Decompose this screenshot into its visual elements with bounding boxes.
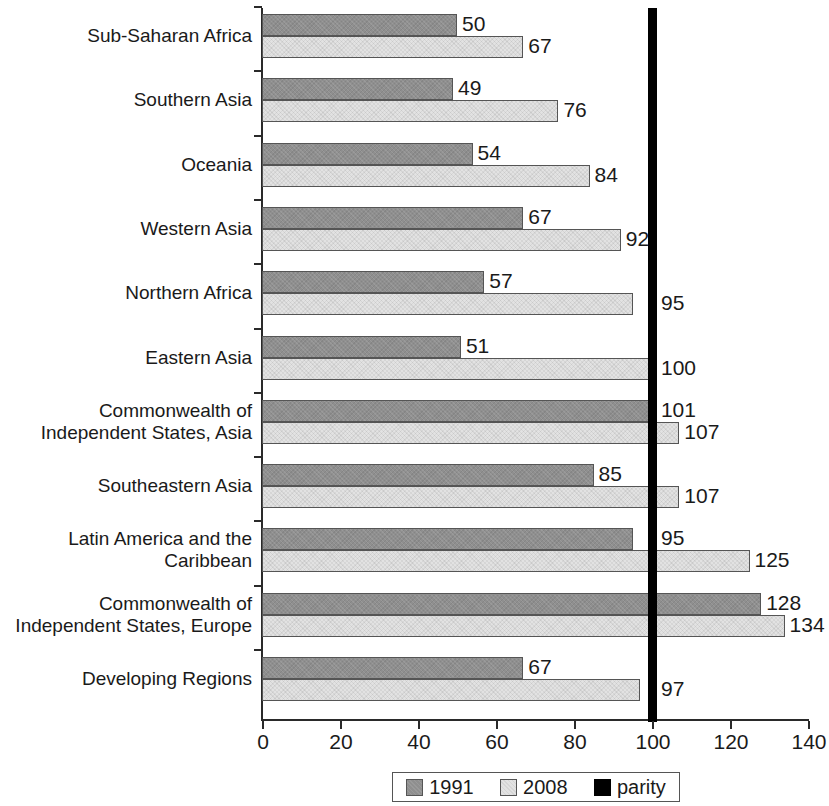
y-axis-tick [254, 392, 262, 394]
bar-1991-7 [262, 464, 594, 486]
x-axis-tick-label: 80 [563, 730, 586, 754]
x-axis-tick-label: 140 [791, 730, 826, 754]
bar-2008-10 [262, 679, 640, 701]
bar-value-label: 54 [478, 141, 501, 165]
y-axis-tick [254, 520, 262, 522]
bar-2008-7 [262, 486, 679, 508]
bar-value-label: 67 [528, 205, 551, 229]
legend-label-parity: parity [617, 776, 666, 799]
bar-2008-3 [262, 229, 621, 251]
x-axis-tick-label: 60 [485, 730, 508, 754]
bar-value-label: 95 [661, 526, 684, 550]
bar-1991-3 [262, 207, 523, 229]
category-label-7: Southeastern Asia [2, 475, 252, 497]
legend-item-parity: parity [594, 776, 666, 799]
category-label-0: Sub-Saharan Africa [2, 25, 252, 47]
y-axis-tick [254, 135, 262, 137]
bar-value-label: 107 [684, 484, 719, 508]
x-axis-tick-label: 20 [329, 730, 352, 754]
bar-value-label: 125 [755, 548, 790, 572]
category-label-4: Northern Africa [2, 282, 252, 304]
legend-label-1991: 1991 [429, 776, 474, 799]
bar-value-label: 134 [790, 613, 825, 637]
bar-value-label: 101 [661, 398, 696, 422]
bar-1991-9 [262, 593, 761, 615]
bar-value-label: 100 [661, 356, 696, 380]
x-axis-tick [730, 721, 732, 729]
bar-chart: 5067497654846792579551100101107851079512… [0, 0, 829, 806]
bar-1991-2 [262, 143, 473, 165]
parity-swatch [594, 779, 611, 796]
bar-value-label: 51 [466, 334, 489, 358]
bar-value-label: 67 [528, 655, 551, 679]
bar-value-label: 95 [661, 291, 684, 315]
bar-1991-0 [262, 14, 457, 36]
legend-item-2008: 2008 [500, 776, 568, 799]
bar-1991-8 [262, 528, 633, 550]
x-axis-tick [496, 721, 498, 729]
x-axis-tick-label: 120 [713, 730, 748, 754]
y-axis-tick [254, 328, 262, 330]
bar-value-label: 50 [462, 12, 485, 36]
x-axis-tick [808, 721, 810, 729]
category-label-2: Oceania [2, 154, 252, 176]
bar-1991-4 [262, 271, 484, 293]
x-axis-tick [574, 721, 576, 729]
bar-value-label: 49 [458, 76, 481, 100]
x-axis-tick-label: 100 [635, 730, 670, 754]
bar-2008-9 [262, 615, 785, 637]
legend-label-2008: 2008 [523, 776, 568, 799]
category-label-10: Developing Regions [2, 668, 252, 690]
parity-reference-line [648, 8, 657, 722]
bar-2008-4 [262, 293, 633, 315]
bar-1991-6 [262, 400, 656, 422]
x-axis-tick-label: 40 [407, 730, 430, 754]
y-axis-tick [254, 6, 262, 8]
series-1991-swatch [406, 779, 423, 796]
bar-2008-1 [262, 100, 558, 122]
bar-2008-8 [262, 550, 750, 572]
y-axis-tick [254, 585, 262, 587]
bar-1991-1 [262, 78, 453, 100]
bar-value-label: 107 [684, 420, 719, 444]
bar-2008-6 [262, 422, 679, 444]
chart-legend: 1991 2008 parity [392, 772, 680, 802]
bar-value-label: 57 [489, 269, 512, 293]
plot-area: 5067497654846792579551100101107851079512… [262, 10, 808, 718]
y-axis-tick [254, 649, 262, 651]
x-axis-tick [262, 721, 264, 729]
y-axis-tick [254, 263, 262, 265]
bar-value-label: 97 [661, 677, 684, 701]
y-axis-tick [254, 70, 262, 72]
category-label-6: Commonwealth of Independent States, Asia [2, 400, 252, 444]
legend-item-1991: 1991 [406, 776, 474, 799]
category-label-5: Eastern Asia [2, 347, 252, 369]
bar-value-label: 128 [766, 591, 801, 615]
bar-value-label: 92 [626, 227, 649, 251]
bar-2008-2 [262, 165, 590, 187]
x-axis-tick-label: 0 [257, 730, 269, 754]
bar-value-label: 84 [595, 163, 618, 187]
x-axis-tick [652, 721, 654, 729]
category-label-3: Western Asia [2, 218, 252, 240]
bar-1991-5 [262, 336, 461, 358]
category-label-8: Latin America and the Caribbean [2, 528, 252, 572]
x-axis-line [261, 719, 809, 721]
y-axis-tick [254, 199, 262, 201]
bar-value-label: 67 [528, 34, 551, 58]
bar-2008-5 [262, 358, 652, 380]
y-axis-tick [254, 456, 262, 458]
category-label-1: Southern Asia [2, 89, 252, 111]
x-axis-tick [418, 721, 420, 729]
category-label-9: Commonwealth of Independent States, Euro… [2, 593, 252, 637]
bar-value-label: 76 [563, 98, 586, 122]
bar-2008-0 [262, 36, 523, 58]
series-2008-swatch [500, 779, 517, 796]
bar-1991-10 [262, 657, 523, 679]
bar-value-label: 85 [599, 462, 622, 486]
x-axis-tick [340, 721, 342, 729]
